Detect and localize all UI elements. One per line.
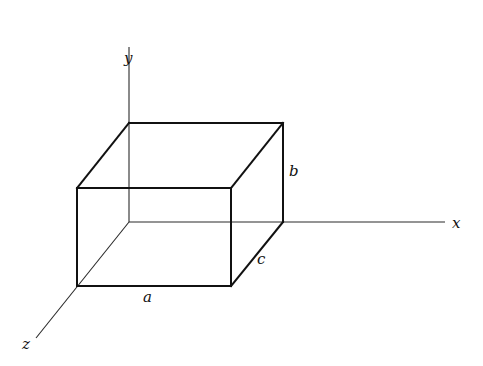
y-axis-label: y	[123, 49, 133, 67]
dimension-b-label: b	[289, 162, 299, 180]
dimension-c-label: c	[257, 250, 266, 268]
z-axis-label: z	[21, 335, 30, 353]
z-axis	[36, 222, 129, 338]
box-edge-top-right	[231, 123, 283, 188]
x-axis-label: x	[452, 214, 461, 232]
dimension-a-label: a	[143, 288, 152, 306]
coordinate-box-diagram: y x z a b c	[0, 0, 483, 366]
box-edge-top-left	[77, 123, 129, 188]
